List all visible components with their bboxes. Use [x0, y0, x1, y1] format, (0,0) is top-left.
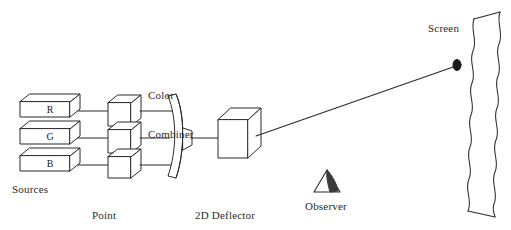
- modulators-group-label: Point Modulators: [92, 183, 145, 230]
- combiner-label-line2: Combiner: [148, 128, 194, 141]
- modulator-cube-red: [108, 95, 141, 126]
- deflector-label: 2D Deflector and Projection Optics: [195, 183, 275, 230]
- deflector-cube: [218, 108, 261, 158]
- combiner-label: Color Combiner: [148, 63, 194, 167]
- source-label-blue: B: [30, 158, 70, 169]
- deflector-label-line1: 2D Deflector: [195, 209, 275, 222]
- screen-surface: [467, 12, 500, 217]
- figure-canvas: R G B Sources Point Modulators Color Com…: [0, 0, 511, 230]
- observer-icon: [314, 170, 340, 192]
- source-label-green: G: [30, 131, 70, 142]
- screen-label: Screen: [428, 22, 459, 35]
- source-label-red: R: [30, 104, 70, 115]
- screen-spot: [453, 60, 461, 71]
- modulators-label-line1: Point: [92, 209, 145, 222]
- modulator-cube-blue: [108, 149, 141, 178]
- observer-label: Observer: [305, 200, 347, 213]
- sources-group-label: Sources: [12, 183, 48, 196]
- modulator-cube-green: [108, 122, 141, 153]
- projection-beam: [256, 66, 456, 136]
- combiner-label-line1: Color: [148, 89, 194, 102]
